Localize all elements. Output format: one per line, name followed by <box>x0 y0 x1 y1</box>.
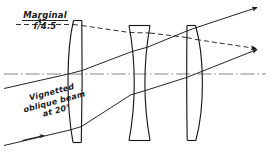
marginal-ray-label: Marginal f/4.5 <box>18 11 72 31</box>
optical-ray-diagram: Marginal f/4.5 Vignetted oblique beam at… <box>0 0 270 164</box>
f-number-label-text: f/4.5 <box>22 20 68 31</box>
lens-element-2 <box>129 26 150 141</box>
lens-element-3 <box>187 26 203 141</box>
ray-oblique-entry-arrow <box>22 136 44 141</box>
marginal-label-text: Marginal <box>18 11 72 20</box>
